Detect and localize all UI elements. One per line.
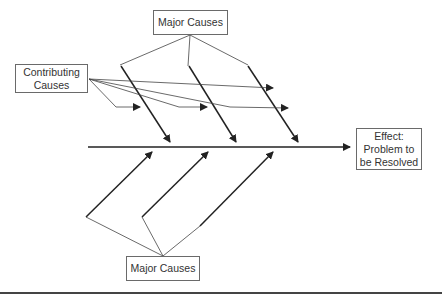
- contributing-causes-box: Contributing Causes: [15, 64, 88, 93]
- bottom-bones: [86, 152, 273, 226]
- effect-label-line1: Effect:: [374, 130, 404, 143]
- effect-label-line2: Problem to: [364, 143, 415, 156]
- contributing-causes-label-line1: Contributing: [23, 66, 80, 79]
- major-causes-bottom-label: Major Causes: [131, 262, 196, 275]
- bottom-divider: [0, 292, 442, 294]
- effect-label-line3: be Resolved: [360, 156, 418, 169]
- major-causes-bottom-box: Major Causes: [126, 256, 200, 281]
- contributing-causes-label-line2: Causes: [34, 79, 70, 92]
- top-bones: [121, 66, 298, 142]
- effect-box: Effect: Problem to be Resolved: [356, 128, 422, 170]
- major-causes-top-label: Major Causes: [158, 16, 223, 29]
- top-connectors: [120, 35, 248, 66]
- bottom-connectors: [86, 217, 200, 256]
- contributing-arrows: [89, 79, 288, 108]
- major-causes-top-box: Major Causes: [153, 10, 228, 35]
